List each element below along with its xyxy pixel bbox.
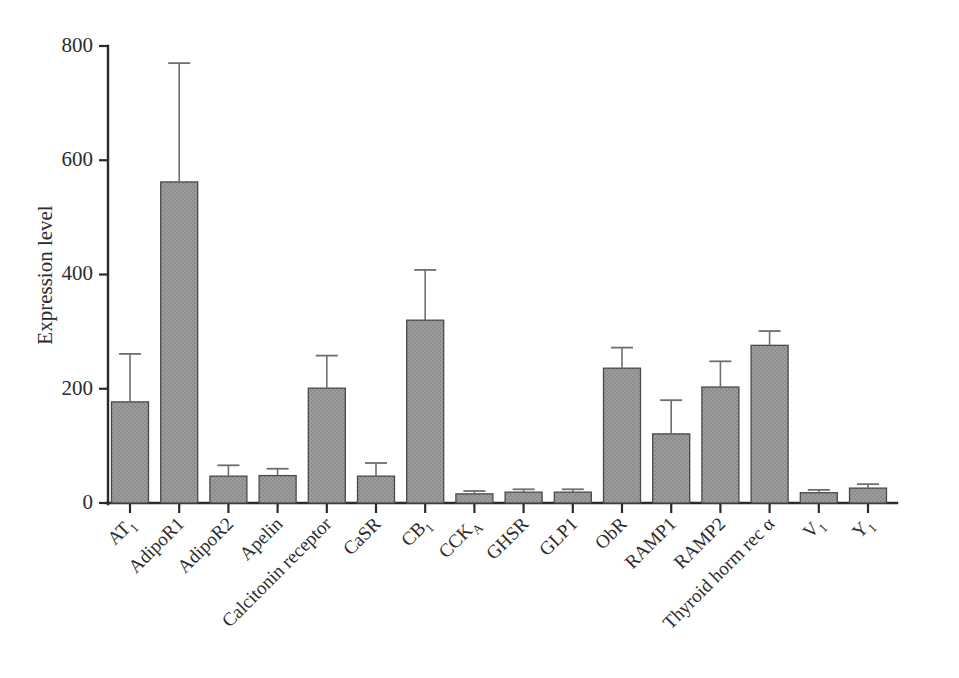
bar — [112, 402, 149, 503]
bar — [751, 345, 788, 503]
bar — [505, 492, 542, 503]
plot-background — [0, 0, 959, 678]
bar — [702, 387, 739, 503]
y-tick-label: 600 — [62, 147, 94, 171]
y-tick-label: 0 — [83, 490, 94, 514]
y-tick-label: 400 — [62, 261, 94, 285]
bar — [800, 493, 837, 503]
bar — [604, 368, 641, 503]
bar — [407, 320, 444, 503]
bar — [161, 182, 198, 503]
bar — [210, 476, 247, 503]
chart-canvas: 0200400600800 AT1AdipoR1AdipoR2ApelinCal… — [0, 0, 959, 678]
y-tick-label: 200 — [62, 376, 94, 400]
bar-chart-figure: 0200400600800 AT1AdipoR1AdipoR2ApelinCal… — [0, 0, 959, 678]
y-tick-label: 800 — [62, 33, 94, 57]
bar — [456, 494, 493, 503]
bar — [850, 488, 887, 503]
bar — [653, 434, 690, 503]
bar — [308, 388, 345, 503]
bar — [259, 476, 296, 503]
bar — [358, 476, 395, 503]
bar — [554, 492, 591, 503]
y-axis-title: Expression level — [33, 205, 57, 345]
